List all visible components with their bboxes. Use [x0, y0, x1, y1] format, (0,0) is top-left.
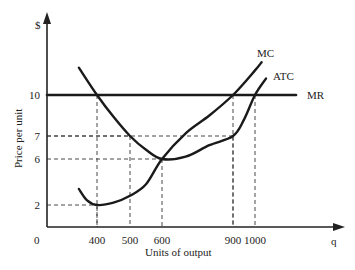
- origin-label: 0: [34, 234, 40, 246]
- curve-labels: MCATCMR: [257, 47, 325, 101]
- y-tick-label: 7: [35, 130, 41, 142]
- cost-curves-chart: $ q 0 Units of output Price per unit 400…: [0, 0, 355, 270]
- y-axis-end-label: $: [35, 19, 41, 31]
- x-tick-label: 600: [154, 234, 171, 246]
- guide-lines: [47, 95, 255, 227]
- x-axis-title: Units of output: [145, 246, 212, 258]
- x-tick-label: 900: [225, 234, 242, 246]
- mc-label: MC: [257, 47, 274, 59]
- x-tick-label: 500: [122, 234, 139, 246]
- x-tick-label: 1000: [244, 234, 267, 246]
- x-axis-end-label: q: [331, 235, 337, 247]
- y-axis-title: Price per unit: [12, 109, 24, 168]
- y-tick-label: 6: [35, 153, 41, 165]
- atc-label: ATC: [273, 70, 294, 82]
- x-axis-arrow-icon: [333, 223, 345, 231]
- x-tick-label: 400: [89, 234, 106, 246]
- tick-labels: 400500600900100026710: [29, 89, 267, 246]
- curves: [47, 62, 296, 205]
- mr-label: MR: [307, 89, 325, 101]
- y-tick-label: 2: [35, 199, 41, 211]
- y-axis-arrow-icon: [43, 12, 51, 24]
- y-tick-label: 10: [29, 89, 41, 101]
